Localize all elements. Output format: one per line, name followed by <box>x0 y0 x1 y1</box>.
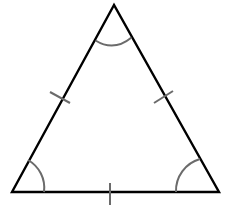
triangle-outline <box>12 5 219 192</box>
bottom-right-angle-arc <box>176 159 200 192</box>
equilateral-triangle-diagram <box>0 0 230 212</box>
apex-angle-arc <box>96 38 132 46</box>
bottom-left-angle-arc <box>28 160 44 192</box>
